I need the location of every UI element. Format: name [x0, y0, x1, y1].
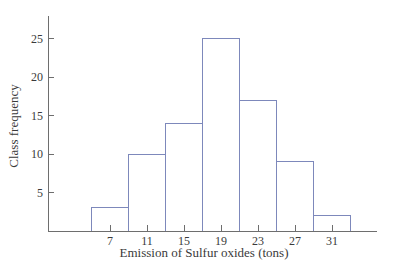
histogram-figure: 5101520257111519232731 Emission of Sulfu… [0, 0, 394, 274]
histogram-chart: 5101520257111519232731 Emission of Sulfu… [0, 0, 394, 274]
bar-15 [166, 123, 203, 231]
y-tick-label-20: 20 [31, 70, 43, 84]
bar-11 [129, 154, 166, 231]
x-tick-label-31: 31 [326, 234, 338, 248]
bar-23 [240, 100, 277, 231]
y-tick-label-5: 5 [37, 186, 43, 200]
x-tick-label-27: 27 [289, 234, 301, 248]
bar-19 [203, 39, 240, 232]
y-tick-label-25: 25 [31, 32, 43, 46]
y-tick-label-15: 15 [31, 109, 43, 123]
x-tick-label-7: 7 [107, 234, 113, 248]
x-axis-title: Emission of Sulfur oxides (tons) [120, 245, 289, 260]
y-axis-title: Class frequency [6, 84, 21, 168]
bar-27 [277, 162, 314, 231]
bars-group [92, 39, 351, 232]
y-tick-label-10: 10 [31, 147, 43, 161]
